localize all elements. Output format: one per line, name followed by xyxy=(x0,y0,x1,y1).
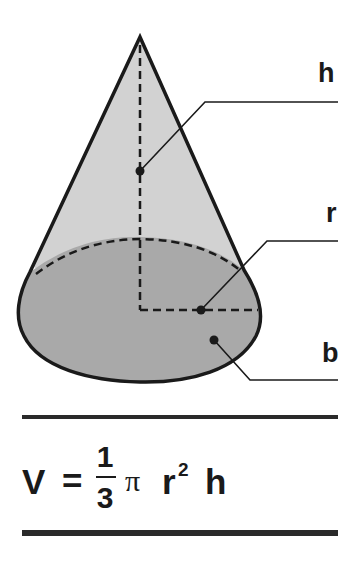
formula-numerator: 1 xyxy=(95,442,115,472)
formula-volume: V xyxy=(22,464,45,499)
cone-diagram xyxy=(0,0,355,400)
marker-dot-r xyxy=(197,306,206,315)
marker-dot-b xyxy=(210,336,219,345)
bottom-divider xyxy=(22,530,338,536)
formula-exponent: 2 xyxy=(178,460,189,479)
marker-dot-h xyxy=(136,167,145,176)
formula-denominator: 3 xyxy=(95,483,115,513)
fraction-bar xyxy=(96,476,116,478)
label-base: b xyxy=(322,340,339,367)
label-height: h xyxy=(318,60,335,87)
formula-radius: r xyxy=(162,464,176,499)
top-divider xyxy=(22,415,338,419)
formula-pi: π xyxy=(125,466,140,496)
label-radius: r xyxy=(326,200,337,227)
formula-equals: = xyxy=(62,463,82,498)
formula-height: h xyxy=(205,464,226,499)
